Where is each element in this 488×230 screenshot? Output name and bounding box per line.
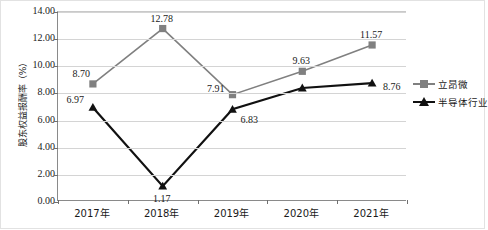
x-tick-label: 2018年 <box>127 205 197 220</box>
gridline <box>58 148 406 149</box>
y-tick-label: 10.00 <box>17 60 55 70</box>
y-tick-mark <box>54 66 58 67</box>
chart-legend: 立昂微 半导体行业 <box>413 75 486 111</box>
x-tick-mark <box>128 200 129 204</box>
y-tick-label: 2.00 <box>17 169 55 179</box>
legend-label-series-1: 立昂微 <box>438 77 468 91</box>
x-tick-label: 2021年 <box>336 205 406 220</box>
gridline <box>58 66 406 67</box>
x-tick-label: 2020年 <box>266 205 336 220</box>
data-point-square <box>89 80 96 87</box>
data-point-square <box>369 41 376 48</box>
y-tick-label: 4.00 <box>17 142 55 152</box>
gridline <box>58 12 406 13</box>
data-point-square <box>299 68 306 75</box>
data-label: 1.17 <box>153 194 171 204</box>
data-label: 12.78 <box>150 14 173 24</box>
x-tick-mark <box>407 200 408 204</box>
x-tick-mark <box>58 200 59 204</box>
gridline <box>58 39 406 40</box>
y-tick-label: 14.00 <box>17 6 55 16</box>
data-label: 8.70 <box>72 69 90 79</box>
x-tick-label: 2017年 <box>57 205 127 220</box>
y-tick-label: 0.00 <box>17 196 55 206</box>
x-tick-mark <box>337 200 338 204</box>
series-line <box>93 83 372 186</box>
data-point-square <box>159 25 166 32</box>
legend-label-series-2: 半导体行业 <box>438 95 488 109</box>
gridline <box>58 175 406 176</box>
x-axis-tick-labels: 2017年2018年2019年2020年2021年 <box>57 205 406 225</box>
y-tick-label: 6.00 <box>17 115 55 125</box>
plot-area <box>57 11 406 201</box>
data-label: 6.97 <box>66 95 84 105</box>
data-label: 11.57 <box>360 30 382 40</box>
data-label: 9.63 <box>293 56 311 66</box>
y-tick-mark <box>54 148 58 149</box>
data-label: 8.76 <box>383 82 401 92</box>
triangle-marker-icon <box>413 96 435 108</box>
x-tick-mark <box>267 200 268 204</box>
y-tick-mark <box>54 39 58 40</box>
data-point-square <box>229 91 236 98</box>
y-tick-mark <box>54 175 58 176</box>
square-marker-icon <box>413 78 435 90</box>
legend-item-series-2[interactable]: 半导体行业 <box>413 93 486 111</box>
data-label: 7.91 <box>207 84 225 94</box>
data-label: 6.83 <box>241 115 259 125</box>
y-tick-mark <box>54 12 58 13</box>
x-tick-mark <box>198 200 199 204</box>
x-tick-label: 2019年 <box>197 205 267 220</box>
gridline <box>58 121 406 122</box>
y-tick-label: 12.00 <box>17 33 55 43</box>
legend-item-series-1[interactable]: 立昂微 <box>413 75 486 93</box>
series-lines <box>58 12 407 202</box>
y-tick-mark <box>54 121 58 122</box>
data-point-triangle <box>89 103 98 111</box>
y-axis-tick-labels: 14.0012.0010.008.006.004.002.000.00 <box>11 1 55 230</box>
y-tick-label: 8.00 <box>17 87 55 97</box>
y-tick-mark <box>54 93 58 94</box>
gridline <box>58 93 406 94</box>
